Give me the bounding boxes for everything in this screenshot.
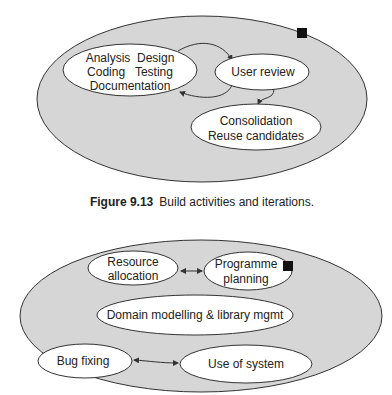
caption-number: Figure 9.13 xyxy=(90,195,154,209)
resource-line-1: Resource xyxy=(107,255,159,269)
figure-management-activities: Resource allocation Programme planning D… xyxy=(20,240,382,392)
figure-caption: Figure 9.13Build activities and iteratio… xyxy=(90,195,314,209)
figure-build-activities: Analysis Design Coding Testing Documenta… xyxy=(37,16,367,182)
outer-ellipse-build xyxy=(37,16,367,182)
programme-line-2: planning xyxy=(223,272,268,286)
black-square-marker-icon xyxy=(297,28,307,38)
consolidation-line-2: Reuse candidates xyxy=(208,129,304,143)
black-square-marker-icon xyxy=(283,261,293,271)
diagram-canvas: Analysis Design Coding Testing Documenta… xyxy=(0,0,392,395)
use-of-system-label: Use of system xyxy=(208,357,284,371)
resource-line-2: allocation xyxy=(108,269,159,283)
domain-modelling-label: Domain modelling & library mgmt xyxy=(107,308,284,322)
consolidation-line-1: Consolidation xyxy=(220,114,293,128)
user-review-label: User review xyxy=(231,65,295,79)
activities-line-3: Documentation xyxy=(90,79,171,93)
activities-line-1: Analysis Design xyxy=(86,51,175,65)
caption-text: Build activities and iterations. xyxy=(159,195,314,209)
activities-line-2: Coding Testing xyxy=(87,65,173,79)
programme-line-1: Programme xyxy=(215,257,278,271)
bug-fixing-label: Bug fixing xyxy=(57,354,110,368)
